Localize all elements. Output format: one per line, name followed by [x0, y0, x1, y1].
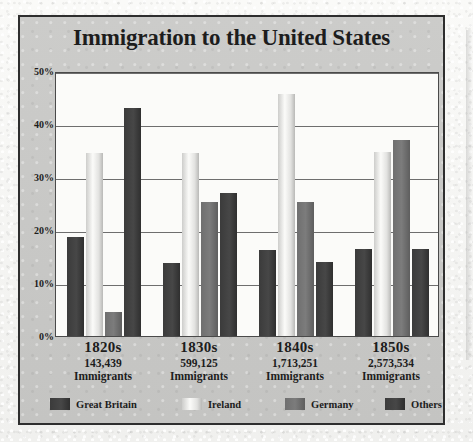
bar — [124, 108, 141, 336]
margin-marks — [462, 40, 470, 120]
bar — [393, 140, 410, 336]
bar — [278, 94, 295, 336]
legend-label: Germany — [311, 399, 354, 410]
x-axis-immigrant-count: 2,573,534 — [341, 357, 441, 369]
chart-legend: Great BritainIrelandGermanyOthers — [32, 398, 435, 418]
y-axis-tick-label: 10% — [20, 278, 54, 289]
bar — [67, 237, 84, 336]
x-axis-group-label: 1830s599,125Immigrants — [149, 339, 249, 382]
x-axis-group-label: 1820s143,439Immigrants — [53, 339, 153, 382]
bar — [105, 312, 122, 336]
x-axis-decade: 1830s — [149, 339, 249, 356]
bar — [412, 249, 429, 336]
x-axis-immigrants-word: Immigrants — [341, 370, 441, 382]
chart-title: Immigration to the United States — [20, 25, 443, 51]
bar — [374, 152, 391, 336]
bar — [182, 153, 199, 336]
y-axis-tick-label: 40% — [20, 119, 54, 130]
legend-item[interactable]: Great Britain — [50, 398, 137, 410]
x-axis-immigrant-count: 1,713,251 — [245, 357, 345, 369]
bar — [355, 249, 372, 336]
legend-label: Ireland — [208, 399, 241, 410]
bar-group — [259, 73, 333, 336]
bar-group — [67, 73, 141, 336]
x-axis-immigrants-word: Immigrants — [149, 370, 249, 382]
x-axis-immigrants-word: Immigrants — [245, 370, 345, 382]
bar — [201, 202, 218, 336]
plot-area — [55, 72, 439, 337]
x-axis-decade: 1820s — [53, 339, 153, 356]
legend-swatch-icon — [50, 398, 70, 410]
x-axis: 1820s143,439Immigrants1830s599,125Immigr… — [55, 339, 439, 397]
bar — [259, 250, 276, 336]
y-axis-tick-label: 30% — [20, 172, 54, 183]
x-axis-decade: 1840s — [245, 339, 345, 356]
y-axis-tick-label: 20% — [20, 225, 54, 236]
x-axis-immigrant-count: 143,439 — [53, 357, 153, 369]
x-axis-decade: 1850s — [341, 339, 441, 356]
legend-swatch-icon — [385, 398, 405, 410]
x-axis-immigrants-word: Immigrants — [53, 370, 153, 382]
bar — [220, 193, 237, 336]
bar — [163, 263, 180, 336]
legend-label: Others — [411, 399, 442, 410]
y-axis-tick-label: 50% — [20, 66, 54, 77]
legend-item[interactable]: Others — [385, 398, 442, 410]
y-axis: 50%40%30%20%10%0% — [18, 72, 54, 337]
legend-item[interactable]: Ireland — [182, 398, 241, 410]
bar-group — [355, 73, 429, 336]
legend-swatch-icon — [285, 398, 305, 410]
legend-label: Great Britain — [76, 399, 137, 410]
y-axis-tick-label: 0% — [20, 331, 54, 342]
legend-swatch-icon — [182, 398, 202, 410]
bar — [297, 202, 314, 336]
x-axis-immigrant-count: 599,125 — [149, 357, 249, 369]
bar — [316, 262, 333, 336]
legend-item[interactable]: Germany — [285, 398, 354, 410]
chart-panel: Immigration to the United States 50%40%3… — [18, 15, 445, 425]
x-axis-group-label: 1840s1,713,251Immigrants — [245, 339, 345, 382]
bar — [86, 153, 103, 336]
x-axis-group-label: 1850s2,573,534Immigrants — [341, 339, 441, 382]
bar-group — [163, 73, 237, 336]
